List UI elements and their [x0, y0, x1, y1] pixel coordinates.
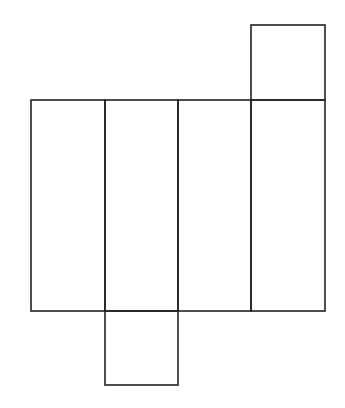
cuboid-net-diagram — [0, 0, 345, 408]
face-side-2 — [105, 100, 178, 311]
face-side-3 — [178, 100, 251, 311]
net-drawing — [0, 0, 345, 408]
face-top-square — [251, 25, 325, 100]
face-side-1 — [31, 100, 105, 311]
face-side-4 — [251, 100, 325, 311]
face-bottom-square — [105, 311, 178, 385]
